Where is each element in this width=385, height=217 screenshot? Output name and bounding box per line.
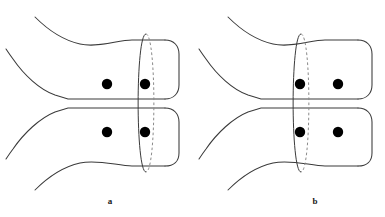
panel-a-marked-point-lower-right <box>140 127 150 137</box>
panel-b-label: b <box>312 196 317 206</box>
topology-figure-page: a b <box>0 0 385 217</box>
panel-a-marked-point-lower-left <box>102 127 112 137</box>
panel-a-label: a <box>108 196 113 206</box>
panel-b-marked-point-lower-right <box>333 127 343 137</box>
panel-a-marked-point-upper-left <box>102 79 112 89</box>
panel-b-marked-point-lower-left <box>295 127 305 137</box>
panel-b-marked-point-upper-left <box>295 79 305 89</box>
figure-canvas: a b <box>0 0 385 217</box>
panel-a-marked-point-upper-right <box>140 79 150 89</box>
panel-b-marked-point-upper-right <box>333 79 343 89</box>
